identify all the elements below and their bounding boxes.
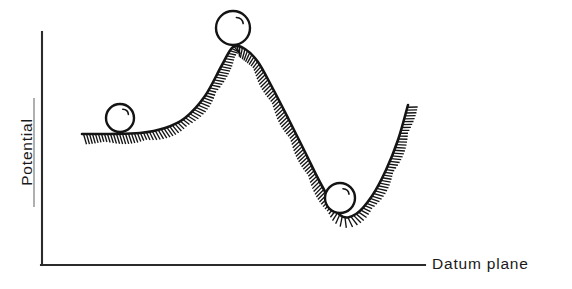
figure-canvas: Potential Datum plane [0, 0, 572, 289]
hatch-tick [120, 134, 123, 144]
hatch-tick [370, 198, 379, 201]
hatch-tick [377, 188, 387, 190]
y-axis-label: Potential [18, 118, 35, 186]
hatch-tick [382, 178, 391, 180]
hatch-tick [369, 201, 378, 204]
hatch-tick [90, 134, 93, 144]
hatch-tick [299, 155, 307, 162]
x-axis-label: Datum plane [432, 255, 529, 272]
hatch-tick [380, 183, 390, 185]
axes-group [41, 32, 425, 265]
hatch-tick [264, 85, 271, 92]
hatch-tick [96, 134, 99, 143]
hatch-tick [392, 156, 402, 157]
hatch-tick [375, 191, 385, 194]
hatch-tick [336, 215, 340, 224]
hatch-tick [316, 189, 324, 197]
hatch-tick [93, 134, 96, 143]
sphere-outline [216, 11, 250, 45]
hatch-tick [87, 134, 90, 144]
hatch-tick [261, 80, 269, 87]
hatch-tick [378, 186, 388, 188]
potential-energy-figure: Potential Datum plane [0, 0, 572, 289]
hatch-tick [218, 72, 228, 74]
hatch-tick [393, 153, 404, 154]
hatch-tick [340, 216, 342, 226]
hatch-tick [257, 72, 264, 79]
hatch-tick [123, 134, 126, 144]
hatch-tick [345, 217, 346, 227]
hatch-tick [258, 74, 265, 81]
hatch-tick [315, 187, 322, 195]
hatch-tick [283, 122, 290, 129]
hatch-tick [211, 85, 220, 87]
ball-at-peak [216, 11, 250, 45]
hatch-tick [280, 117, 288, 124]
hatch-tick [223, 64, 233, 66]
hatch-tick [117, 134, 120, 144]
hatch-tick [216, 77, 226, 79]
hatch-tick [114, 134, 117, 144]
hatch-tick [111, 134, 114, 143]
hatch-tick [390, 161, 400, 162]
hatch-tick [372, 196, 382, 199]
hatch-tick [134, 133, 137, 142]
hatch-tick [224, 61, 233, 63]
sphere-outline [325, 183, 355, 213]
hatch-tick [281, 120, 289, 127]
hatch-tick [131, 134, 134, 143]
ball-in-valley [325, 183, 355, 213]
hatch-tick [389, 164, 398, 165]
hatch-tick [391, 159, 401, 160]
hatch-tick [297, 152, 305, 159]
hatch-tick [276, 109, 283, 116]
sphere-outline [106, 104, 134, 132]
hatch-tick [84, 134, 87, 144]
hatch-tick [262, 82, 270, 89]
hatch-tick [214, 80, 224, 82]
hatch-tick [221, 67, 231, 69]
hatch-tick [314, 184, 321, 191]
hatch-tick [394, 150, 405, 151]
hatch-tick [374, 194, 384, 197]
hatch-tick [204, 98, 213, 101]
ball-on-plateau [106, 104, 134, 132]
hatch-tick [213, 83, 222, 85]
hatch-tick [129, 134, 132, 144]
potential-energy-curve [82, 46, 408, 218]
hatch-tick [300, 157, 308, 164]
hatch-tick [205, 96, 214, 99]
hatch-tick [296, 149, 304, 156]
axis-labels-group: Potential Datum plane [18, 98, 529, 272]
hatch-tick [395, 147, 405, 148]
hatch-tick [278, 114, 286, 121]
hatch-tick [126, 134, 129, 144]
hatch-tick [381, 180, 391, 182]
hatch-tick [259, 77, 267, 84]
hatch-tick [220, 69, 230, 71]
hatch-tick [396, 145, 406, 146]
hatch-tick [295, 147, 303, 154]
hatch-tick [277, 112, 285, 119]
hatch-tick [217, 75, 227, 77]
